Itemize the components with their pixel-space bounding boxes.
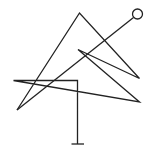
line-drawing [0, 0, 153, 151]
endpoint-circle-icon [133, 9, 143, 19]
background [0, 0, 153, 151]
